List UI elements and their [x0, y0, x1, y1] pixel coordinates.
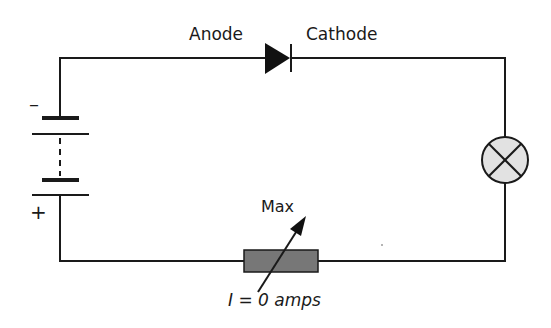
current-label: I = 0 amps	[228, 290, 321, 310]
wires	[60, 58, 505, 261]
circuit-diagram: – + Anode Cathode Max I = 0 amps	[0, 0, 551, 328]
top-wire-left	[60, 58, 266, 118]
lamp-icon	[482, 137, 528, 183]
stray-dot	[381, 244, 383, 246]
battery	[32, 118, 89, 195]
circuit-svg: – + Anode Cathode Max I = 0 amps	[0, 0, 551, 328]
anode-label: Anode	[189, 24, 243, 44]
cathode-label: Cathode	[306, 24, 377, 44]
bottom-wire-left	[60, 195, 244, 261]
right-wire-lower	[318, 183, 505, 261]
diode-icon	[265, 43, 291, 74]
rheostat-icon	[244, 216, 318, 292]
battery-positive-label: +	[30, 200, 47, 224]
top-wire-right	[291, 58, 505, 137]
rheostat-max-label: Max	[261, 197, 294, 216]
battery-negative-label: –	[29, 92, 39, 116]
